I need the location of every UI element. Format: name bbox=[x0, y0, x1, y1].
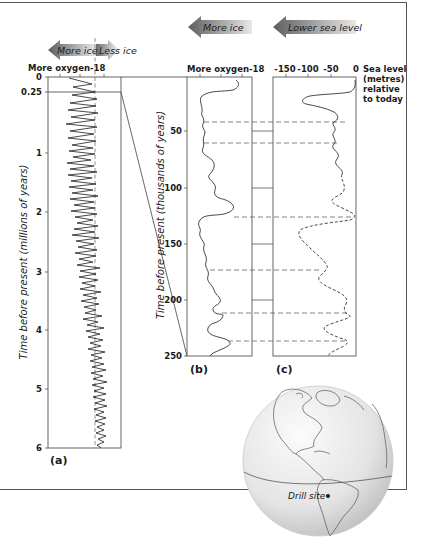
svg-text:0: 0 bbox=[353, 64, 359, 74]
svg-text:100: 100 bbox=[164, 183, 182, 193]
tick-bridges bbox=[252, 131, 273, 300]
svg-text:Sea level: Sea level bbox=[363, 64, 407, 74]
more-ice-label-b: More ice bbox=[203, 22, 244, 33]
oxygen18-series-a bbox=[66, 78, 107, 448]
svg-text:to today: to today bbox=[363, 94, 403, 104]
svg-text:2: 2 bbox=[36, 207, 42, 217]
oxygen18-label-b: More oxygen-18 bbox=[187, 64, 264, 74]
y-axis-title-a: Time before present (millions of years) bbox=[18, 165, 29, 360]
panel-label-c: (c) bbox=[276, 363, 293, 376]
svg-text:250: 250 bbox=[164, 351, 182, 361]
panel-c: Lower sea level -150 -100 -50 0 Sea leve… bbox=[273, 16, 407, 376]
panel-label-a: (a) bbox=[50, 454, 67, 467]
svg-text:relative: relative bbox=[363, 84, 400, 94]
panel-b: More ice More oxygen-18 50 100 150 200 2… bbox=[155, 16, 264, 376]
sea-level-series-c-dashed bbox=[299, 174, 355, 356]
more-ice-label: More ice bbox=[57, 45, 98, 56]
oxygen18-series-b bbox=[199, 80, 239, 356]
svg-text:-150: -150 bbox=[274, 64, 295, 74]
svg-text:4: 4 bbox=[36, 325, 42, 335]
svg-text:0.25: 0.25 bbox=[21, 87, 42, 97]
correlation-lines bbox=[204, 122, 354, 341]
y-axis-title-b: Time before present (thousands of years) bbox=[155, 111, 166, 319]
zoom-connector bbox=[121, 77, 187, 356]
svg-text:50: 50 bbox=[170, 126, 182, 136]
svg-text:0: 0 bbox=[36, 72, 42, 82]
svg-text:5: 5 bbox=[36, 384, 42, 394]
drill-site-label: Drill site bbox=[288, 491, 326, 501]
svg-text:200: 200 bbox=[164, 295, 182, 305]
y-axis-b: 50 100 150 200 250 bbox=[164, 126, 187, 361]
x-axis-c: -150 -100 -50 0 bbox=[274, 64, 359, 77]
sea-level-series-c-solid bbox=[303, 80, 356, 174]
lower-sea-level-label: Lower sea level bbox=[288, 22, 362, 33]
svg-text:150: 150 bbox=[164, 239, 182, 249]
svg-text:6: 6 bbox=[36, 443, 42, 453]
svg-text:(metres): (metres) bbox=[363, 74, 405, 84]
figure: More ice Less ice More oxygen-18 0 0.25 … bbox=[0, 0, 425, 538]
drill-site-marker-icon bbox=[326, 494, 330, 498]
svg-text:-100: -100 bbox=[297, 64, 318, 74]
globe: Drill site bbox=[243, 386, 393, 536]
less-ice-label: Less ice bbox=[99, 45, 137, 56]
panel-a: More ice Less ice More oxygen-18 0 0.25 … bbox=[18, 38, 137, 467]
svg-text:3: 3 bbox=[36, 267, 42, 277]
svg-text:1: 1 bbox=[36, 148, 42, 158]
svg-text:-50: -50 bbox=[323, 64, 338, 74]
sea-level-unit-label: Sea level (metres) relative to today bbox=[363, 64, 407, 104]
panel-label-b: (b) bbox=[190, 363, 208, 376]
